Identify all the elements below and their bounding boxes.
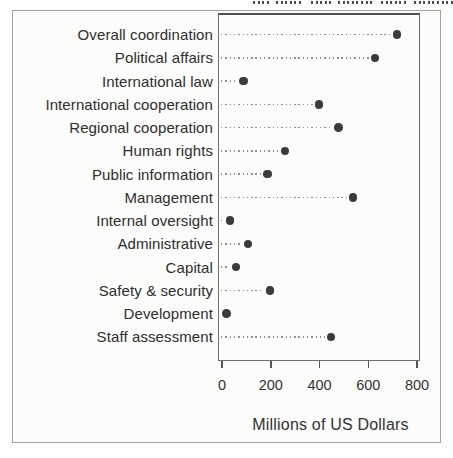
category-label: Management [10,188,213,208]
data-point [226,216,235,225]
category-label: Political affairs [10,48,213,68]
data-point [334,123,343,132]
leader-line [221,173,262,175]
leader-line [221,220,224,222]
data-point [327,333,336,342]
data-point [266,286,275,295]
clipped-word-fragment [253,1,269,4]
x-axis-tick-label: 0 [200,377,244,393]
leader-line [221,80,237,82]
leader-line [221,104,313,106]
category-label: Human rights [10,141,213,161]
category-label: International cooperation [10,95,213,115]
clipped-word-fragment [381,1,407,4]
leader-line [221,127,332,129]
clipped-word-fragment [414,1,453,4]
clipped-word-fragment [276,1,304,4]
leader-line [221,243,242,245]
x-axis-tick [416,361,418,368]
category-label: International law [10,72,213,92]
x-axis-tick [270,361,272,368]
x-axis-tick [319,361,321,368]
category-label: Overall coordination [10,25,213,45]
data-point [244,240,253,249]
category-label: Safety & security [10,281,213,301]
category-label: Public information [10,165,213,185]
leader-line [221,57,369,59]
data-point [281,147,290,156]
category-label: Development [10,304,213,324]
x-axis-tick-label: 800 [395,377,439,393]
category-label-column: Overall coordinationPolitical affairsInt… [10,13,213,361]
data-point [263,170,272,179]
category-label: Regional cooperation [10,118,213,138]
scanned-book-page: Overall coordinationPolitical affairsInt… [0,0,453,458]
data-point [371,54,380,63]
leader-line [221,150,279,152]
leader-line [221,290,264,292]
x-axis-tick-label: 400 [298,377,342,393]
clipped-page-header-text [253,0,453,5]
leader-line [221,197,347,199]
data-point [393,30,402,39]
data-point [239,77,248,86]
x-axis-tick-label: 600 [346,377,390,393]
leader-line [221,34,391,36]
leader-line [221,336,325,338]
x-axis-tick [368,361,370,368]
clipped-word-fragment [311,1,331,4]
data-point [349,193,358,202]
category-label: Capital [10,258,213,278]
x-axis-title: Millions of US Dollars [228,416,433,434]
category-label: Administrative [10,234,213,254]
category-label: Staff assessment [10,327,213,347]
data-point [232,263,241,272]
data-point [315,100,324,109]
category-label: Internal oversight [10,211,213,231]
x-axis-tick [221,361,223,368]
data-point [222,309,231,318]
plot-area [218,13,420,361]
leader-line [221,266,230,268]
x-axis-tick-label: 200 [249,377,293,393]
clipped-word-fragment [338,1,374,4]
